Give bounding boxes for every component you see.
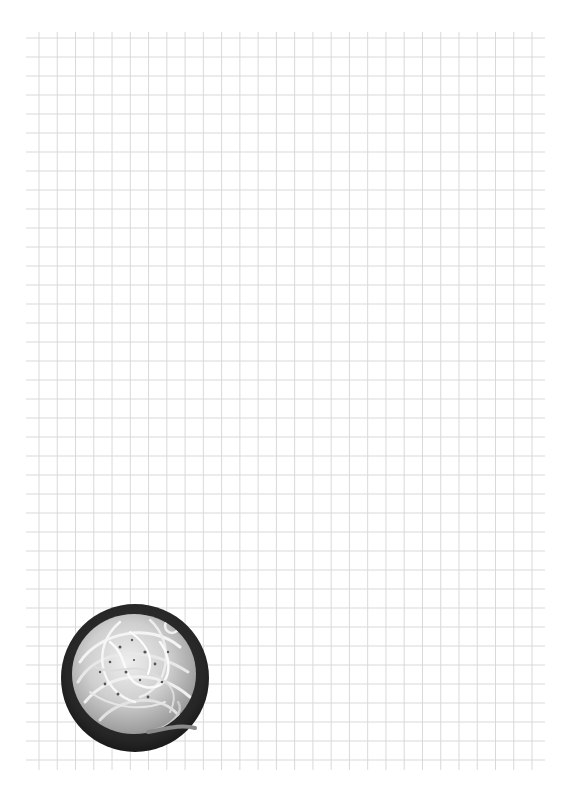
pasta-bowl-image [60,602,210,754]
